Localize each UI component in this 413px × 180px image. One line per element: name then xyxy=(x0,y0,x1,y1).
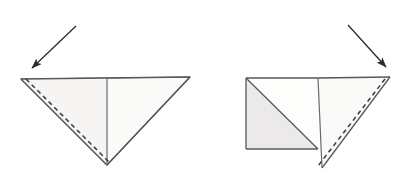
left-fold-arrow xyxy=(32,26,76,68)
panel-right xyxy=(246,25,390,168)
origami-diagram-container xyxy=(0,0,413,180)
origami-diagram xyxy=(0,0,413,180)
panel-left xyxy=(21,26,190,165)
right-fold-arrow xyxy=(348,25,386,67)
